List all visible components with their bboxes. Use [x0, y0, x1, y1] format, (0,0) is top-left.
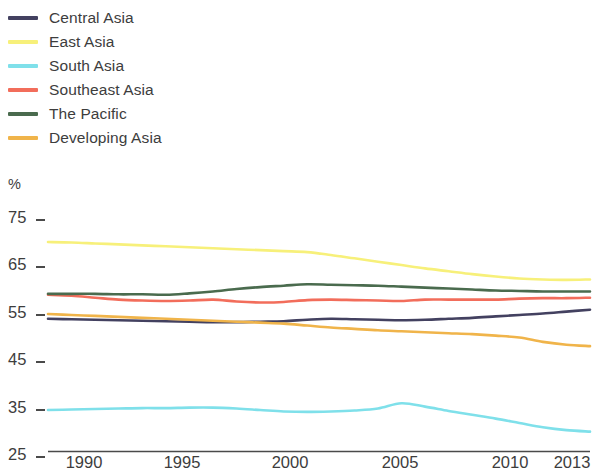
- series-line-central-asia: [48, 310, 590, 323]
- series-line-southeast-asia: [48, 295, 590, 303]
- plot-canvas: [0, 0, 596, 474]
- series-line-south-asia: [48, 403, 590, 431]
- series-line-east-asia: [48, 242, 590, 280]
- line-chart: % 75 65 55 45 35 25 1990 1995 2000 2005 …: [0, 0, 596, 474]
- series-line-the-pacific: [48, 284, 590, 295]
- series-paths: [48, 242, 590, 432]
